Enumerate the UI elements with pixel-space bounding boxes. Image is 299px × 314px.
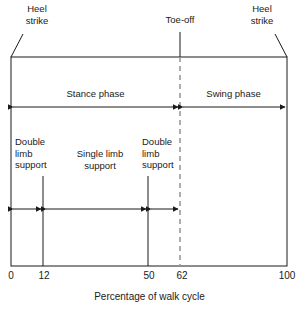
axis-tick-12: 12	[29, 270, 59, 282]
stance-phase-label: Stance phase	[11, 88, 180, 100]
single-limb-support-label: Single limb support	[62, 148, 138, 171]
double-limb-support-right-label: Double limb support	[142, 136, 188, 171]
swing-phase-label: Swing phase	[180, 88, 287, 100]
axis-tick-0: 0	[0, 270, 26, 282]
gait-cycle-diagram: Heel strike Toe-off Heel strike Stance p…	[0, 0, 299, 314]
axis-tick-100: 100	[272, 270, 299, 282]
heel-strike-right-leader-line	[275, 34, 287, 57]
heel-strike-left-label: Heel strike	[11, 3, 63, 26]
heel-strike-right-label: Heel strike	[236, 3, 288, 26]
heel-strike-left-leader-line	[11, 34, 23, 57]
toe-off-label: Toe-off	[150, 14, 210, 26]
axis-caption: Percentage of walk cycle	[0, 291, 299, 302]
axis-tick-62: 62	[167, 270, 197, 282]
axis-tick-50: 50	[134, 270, 164, 282]
